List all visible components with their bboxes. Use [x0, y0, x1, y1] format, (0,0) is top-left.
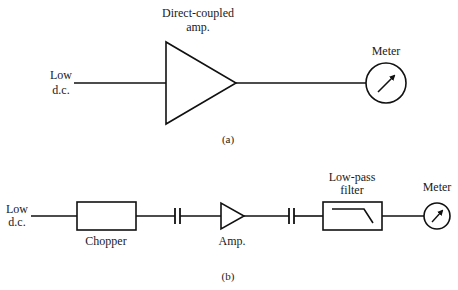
diagram-b: Low d.c. Chopper Amp. Low-pass filter	[6, 170, 451, 283]
caption-a: (a)	[222, 133, 235, 146]
amplifier-triangle-icon	[166, 42, 236, 124]
capacitor-icon	[175, 208, 180, 224]
meter-icon	[366, 63, 406, 103]
chopper-label: Chopper	[85, 234, 126, 248]
input-label-b-line1: Low	[6, 202, 28, 216]
amplifier-label-a-line2: amp.	[186, 20, 210, 34]
amplifier-triangle-icon	[221, 203, 244, 229]
filter-label-line2: filter	[340, 183, 363, 197]
diagram-a: Low d.c. Direct-coupled amp. Meter (a)	[50, 6, 406, 146]
capacitor-icon	[289, 208, 294, 224]
caption-b: (b)	[222, 270, 235, 283]
meter-label-b: Meter	[423, 180, 452, 194]
low-pass-filter-box	[323, 202, 382, 230]
amplifier-label-b: Amp.	[219, 234, 246, 248]
meter-icon	[424, 203, 450, 229]
chopper-box	[77, 202, 136, 230]
input-label-a-line1: Low	[50, 68, 72, 82]
filter-label-line1: Low-pass	[329, 170, 376, 184]
input-label-a-line2: d.c.	[52, 83, 69, 97]
input-label-b-line2: d.c.	[8, 215, 25, 229]
amplifier-label-a-line1: Direct-coupled	[162, 6, 234, 20]
block-diagram: Low d.c. Direct-coupled amp. Meter (a) L…	[0, 0, 458, 290]
meter-label-a: Meter	[372, 44, 401, 58]
